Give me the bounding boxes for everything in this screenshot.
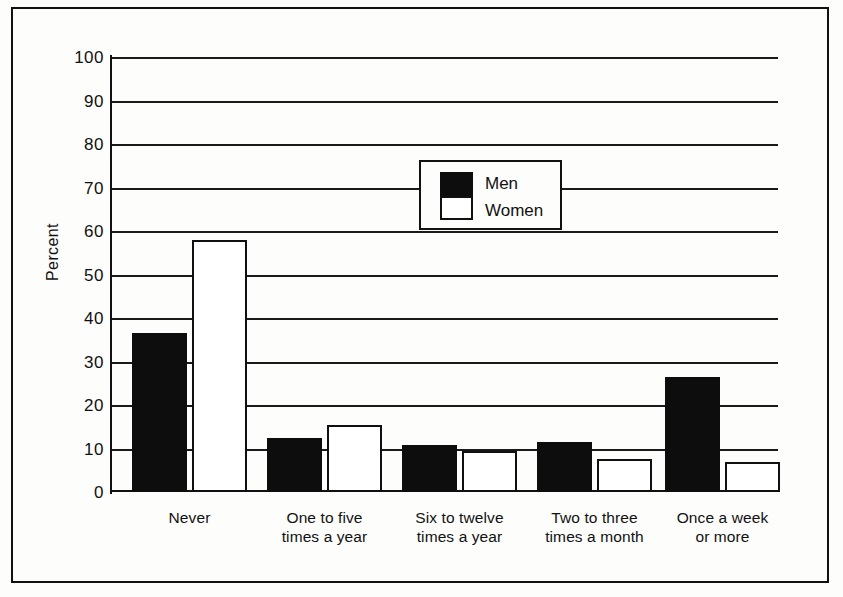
bar-women-group-5 — [725, 462, 780, 492]
y-tick-label: 30 — [58, 354, 104, 371]
y-tick-label: 10 — [58, 441, 104, 458]
y-tick-label: 70 — [58, 180, 104, 197]
legend-swatch-women — [440, 196, 473, 220]
bar-men-group-5 — [665, 377, 720, 492]
bar-women-group-2 — [327, 425, 382, 492]
gridline-80 — [112, 144, 778, 146]
x-label-group-5: Once a weekor more — [643, 508, 803, 546]
bar-men-group-4 — [537, 442, 592, 492]
y-axis-tick-labels: 0102030405060708090100 — [52, 0, 104, 597]
bar-women-group-4 — [597, 459, 652, 492]
y-tick-label: 60 — [58, 223, 104, 240]
bar-men-group-1 — [132, 333, 187, 492]
y-tick-label: 90 — [58, 93, 104, 110]
chart-figure: Percent 0102030405060708090100 NeverOne … — [0, 0, 843, 597]
y-tick-label: 50 — [58, 267, 104, 284]
y-tick-label: 80 — [58, 136, 104, 153]
y-tick-label: 0 — [58, 484, 104, 501]
chart-legend: Men Women — [419, 160, 562, 230]
gridline-90 — [112, 101, 778, 103]
bar-men-group-2 — [267, 438, 322, 492]
bar-men-group-3 — [402, 445, 457, 492]
legend-swatch-men — [440, 172, 473, 196]
bar-women-group-3 — [462, 451, 517, 492]
y-tick-label: 20 — [58, 397, 104, 414]
gridline-60 — [112, 231, 778, 233]
legend-label-men: Men — [485, 175, 518, 192]
legend-label-women: Women — [485, 202, 543, 219]
y-tick-label: 100 — [58, 49, 104, 66]
y-tick-label: 40 — [58, 310, 104, 327]
gridline-100 — [112, 57, 778, 59]
plot-area — [112, 57, 778, 492]
bar-women-group-1 — [192, 240, 247, 492]
legend-swatch-group — [440, 172, 473, 220]
